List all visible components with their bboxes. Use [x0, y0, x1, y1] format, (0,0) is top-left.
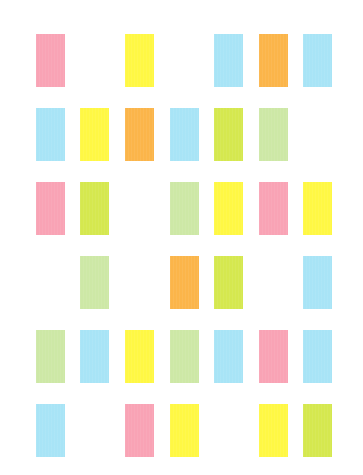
color-tile-pink — [259, 330, 288, 383]
color-tile-blue — [170, 108, 199, 161]
color-tile-yellow — [125, 330, 154, 383]
color-tile-yellow — [170, 404, 199, 457]
color-tile-blue — [303, 330, 332, 383]
color-tile-palegreen — [259, 108, 288, 161]
color-tile-yellow — [80, 108, 109, 161]
color-tile-blue — [214, 34, 243, 87]
color-tile-palegreen — [36, 330, 65, 383]
color-tile-yellow — [125, 34, 154, 87]
color-tile-lime — [303, 404, 332, 457]
color-tile-blue — [214, 330, 243, 383]
color-tile-pink — [36, 182, 65, 235]
color-tile-palegreen — [170, 182, 199, 235]
color-tile-orange — [125, 108, 154, 161]
color-tile-orange — [170, 256, 199, 309]
color-tile-blue — [303, 34, 332, 87]
color-tile-lime — [80, 182, 109, 235]
color-tile-yellow — [303, 182, 332, 235]
color-tile-pink — [125, 404, 154, 457]
color-tile-pink — [259, 182, 288, 235]
color-tile-blue — [80, 330, 109, 383]
color-tile-blue — [36, 404, 65, 457]
color-tile-yellow — [259, 404, 288, 457]
color-tile-pink — [36, 34, 65, 87]
color-tile-palegreen — [170, 330, 199, 383]
color-tile-orange — [259, 34, 288, 87]
color-tile-lime — [214, 108, 243, 161]
color-tile-yellow — [214, 182, 243, 235]
color-tile-blue — [36, 108, 65, 161]
color-tile-palegreen — [80, 256, 109, 309]
color-tile-blue — [303, 256, 332, 309]
color-tile-grid — [0, 0, 363, 475]
color-tile-lime — [214, 256, 243, 309]
